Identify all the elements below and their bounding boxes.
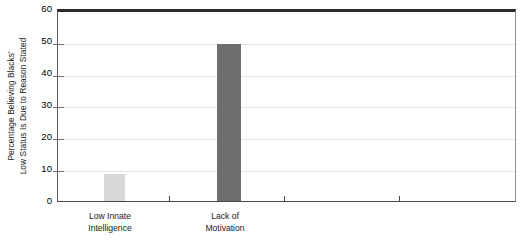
plot-area — [57, 9, 516, 202]
y-tick-label-30: 30 — [30, 100, 52, 110]
bar-lack-of-motivation — [217, 44, 241, 202]
y-tick-label-20: 20 — [30, 132, 52, 142]
y-axis-title-text: Percentage Believing Blacks' Low Status … — [5, 38, 30, 175]
x-tick-label-lack-of-motivation: Lack of Motivation — [189, 211, 261, 234]
x-tick-label-low-innate-intelligence: Low Innate Intelligence — [74, 211, 146, 234]
x-tick-mark-3 — [399, 196, 400, 202]
y-tick-mark-40 — [53, 76, 64, 77]
gridline-30 — [58, 107, 515, 108]
y-tick-mark-50 — [53, 44, 64, 45]
y-tick-mark-10 — [53, 171, 64, 172]
gridline-50 — [58, 44, 515, 45]
y-tick-label-40: 40 — [30, 68, 52, 78]
y-axis-title-line-1: Percentage Believing Blacks' — [5, 38, 17, 175]
y-axis-title: Percentage Believing Blacks' Low Status … — [0, 0, 34, 212]
y-tick-label-0: 0 — [30, 196, 52, 206]
y-tick-label-10: 10 — [30, 164, 52, 174]
bar-low-innate-intelligence — [104, 174, 125, 201]
x-tick-label-1-line-1: Low Innate — [74, 211, 146, 223]
y-axis-title-line-2: Low Status Is Due to Reason Stated — [17, 38, 29, 175]
gridline-40 — [58, 76, 515, 77]
y-tick-mark-20 — [53, 139, 64, 140]
x-tick-label-1-line-2: Intelligence — [74, 223, 146, 235]
gridline-20 — [58, 139, 515, 140]
y-tick-mark-30 — [53, 107, 64, 108]
x-tick-mark-1 — [169, 196, 170, 202]
x-tick-label-2-line-2: Motivation — [189, 223, 261, 235]
gridline-10 — [58, 171, 515, 172]
y-tick-label-60: 60 — [30, 4, 52, 14]
x-tick-label-2-line-1: Lack of — [189, 211, 261, 223]
y-tick-label-50: 50 — [30, 36, 52, 46]
bar-chart-figure: Percentage Believing Blacks' Low Status … — [0, 0, 527, 247]
x-tick-mark-2 — [284, 196, 285, 202]
